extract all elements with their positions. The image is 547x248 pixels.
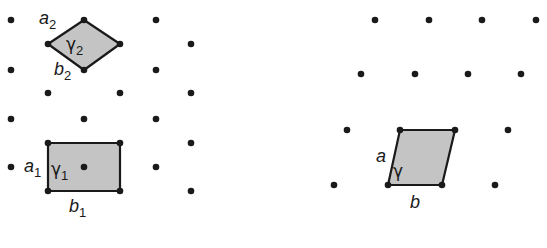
lattice-point [188,41,195,48]
lattice-point [153,164,160,171]
lattice-point [479,17,486,24]
lattice-point [452,127,459,134]
label-b1: b1 [69,196,86,220]
lattice-point [45,188,52,195]
lattice-point [81,67,88,74]
label-b2: b2 [54,59,71,83]
lattice-point [188,188,195,195]
lattice-point [8,116,15,123]
lattice-point [533,17,540,24]
lattice-point [45,90,52,97]
lattice-point [358,71,365,78]
lattice-point [8,67,15,74]
lattice-point [426,17,433,24]
label-gamma: γ [393,161,403,181]
lattice-point [117,188,124,195]
lattice-point [45,41,52,48]
lattice-point [465,71,472,78]
lattice-point [505,127,512,134]
label-a2: a2 [39,8,56,32]
label-b: b [410,192,420,212]
lattice-point [8,17,15,24]
lattice-point [117,41,124,48]
lattice-point [412,71,419,78]
lattice-point [439,182,446,189]
lattice-point [8,164,15,171]
lattice-point [153,67,160,74]
lattice-point [372,17,379,24]
label-a1: a1 [24,156,41,180]
label-a: a [376,146,386,166]
lattice-point [153,116,160,123]
lattice-diagram: a2 γ2 b2 a1 γ1 b1 a γ b [0,0,547,248]
lattice-point [397,127,404,134]
lattice-point [188,90,195,97]
lattice-point [81,116,88,123]
lattice-point [518,71,525,78]
lattice-point [81,17,88,24]
lattice-point [117,90,124,97]
lattice-point [188,140,195,147]
lattice-point [81,164,88,171]
lattice-point [153,17,160,24]
lattice-point [331,182,338,189]
lattice-point [45,140,52,147]
lattice-point [385,182,392,189]
lattice-point [344,127,351,134]
lattice-point [492,182,499,189]
lattice-point [117,140,124,147]
